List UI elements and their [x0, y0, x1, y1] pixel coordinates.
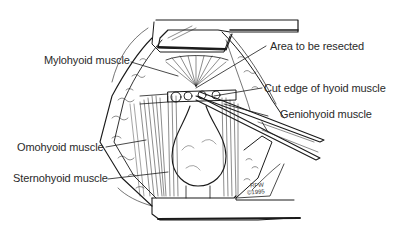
label-cut-edge-hyoid: Cut edge of hyoid muscle [264, 82, 386, 94]
label-omohyoid-muscle: Omohyoid muscle [17, 141, 104, 153]
leader-omohyoid [106, 140, 146, 147]
leader-cut-edge [214, 88, 262, 96]
mylohyoid-fibers [166, 56, 228, 87]
label-sternohyoid-muscle: Sternohyoid muscle [13, 172, 108, 184]
central-mass [172, 106, 226, 198]
artist-copyright-year: ©1995 [247, 188, 265, 195]
label-area-to-be-resected: Area to be resected [270, 40, 364, 52]
label-mylohyoid-muscle: Mylohyoid muscle [44, 54, 130, 66]
bottom-retractor [152, 196, 300, 220]
artist-initials: RFW [250, 182, 264, 189]
label-geniohyoid-muscle: Geniohyoid muscle [280, 108, 372, 120]
hyoid-cut-edge [140, 90, 236, 104]
